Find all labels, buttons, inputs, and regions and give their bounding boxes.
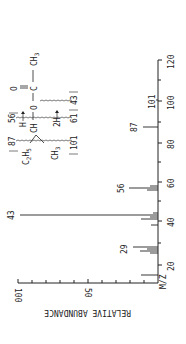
frag-label-56: 56 [8,113,17,123]
peak-label-101: 101 [148,94,157,109]
mass-spectrum-figure: 100 50 RELATIVE ABUNDANCE M/Z 20 40 60 8… [0,0,186,344]
frag-label-101: 101 [70,135,79,150]
h2-transfer: 2H [53,117,62,127]
y-axis-label: RELATIVE ABUNDANCE [44,308,131,317]
x-tick-40: 40 [167,217,176,227]
frag-label-87: 87 [8,136,17,146]
mz-axis: M/Z 20 40 60 80 100 120 [158,54,176,289]
x-tick-100: 100 [167,95,176,110]
peak-label-87: 87 [130,122,139,132]
frag-label-43: 43 [70,95,79,105]
peak-label-43: 43 [7,210,16,220]
struct-o-ether: O [30,105,39,110]
struct-ch3: CH3 [51,146,61,160]
struct-o-carbonyl: O [10,86,19,91]
struct-ch3-acetyl: CH3 [30,52,40,66]
peak-label-29: 29 [120,244,129,254]
x-tick-20: 20 [167,261,176,271]
h-transfer: H [19,122,28,127]
x-tick-80: 80 [167,139,176,149]
x-axis-label: M/Z [159,274,168,289]
structure-diagram: CH3 C O O CH 43 61 56 87 101 H 2H [0,52,79,168]
frag-label-61: 61 [70,113,79,123]
struct-c2h5: C2H5 [22,148,32,165]
x-tick-60: 60 [167,178,176,188]
y-tick-50: 50 [83,288,92,298]
x-tick-120: 120 [167,54,176,69]
struct-c-carbonyl: C [30,86,39,91]
struct-ch: CH [30,123,39,133]
peak-label-56: 56 [117,183,126,193]
y-tick-100: 100 [13,288,22,303]
abundance-axis: 100 50 RELATIVE ABUNDANCE [13,279,158,317]
